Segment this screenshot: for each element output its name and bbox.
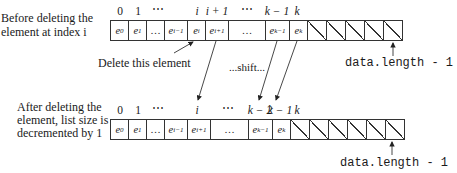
shift-arrow-k-minus-1: [259, 41, 277, 100]
arrows-layer: [0, 0, 457, 173]
shift-arrow-k: [276, 41, 297, 100]
delete-arrow: [174, 42, 193, 53]
shift-arrow-i-plus-1: [198, 41, 216, 100]
